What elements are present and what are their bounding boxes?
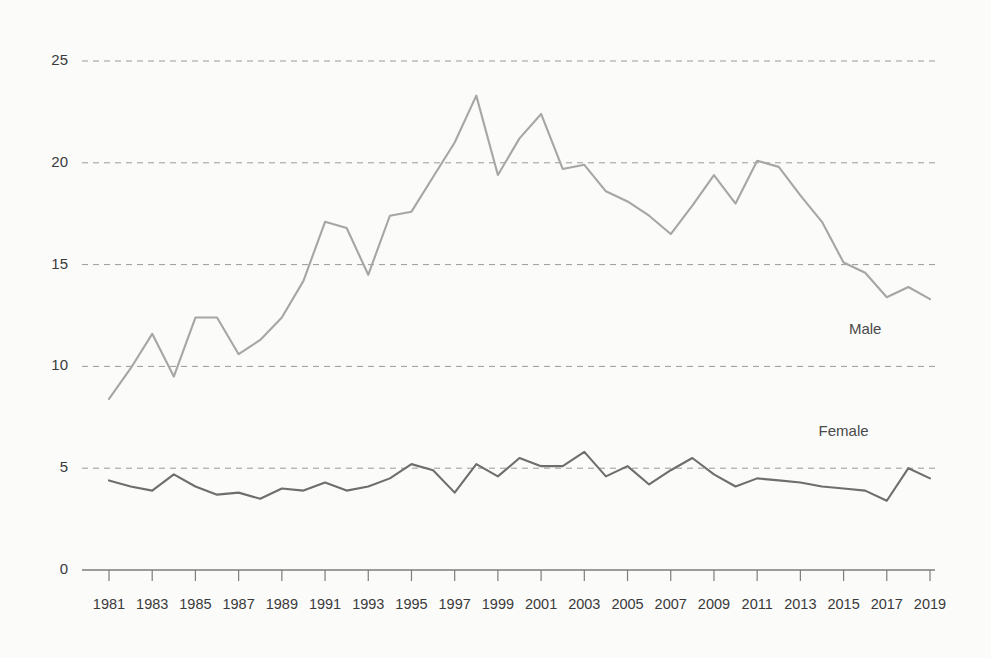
x-tick-label: 2001	[525, 596, 557, 612]
y-tick-label: 25	[51, 51, 68, 68]
x-tick-label: 2019	[914, 596, 946, 612]
y-tick-label: 0	[60, 560, 68, 577]
data-series-group	[109, 96, 930, 501]
x-tick-label: 2005	[611, 596, 643, 612]
x-tick-label: 1983	[136, 596, 168, 612]
x-tick-label: 2013	[784, 596, 816, 612]
x-tick-label: 2015	[827, 596, 859, 612]
x-tick-label: 1989	[266, 596, 298, 612]
x-tick-label: 2009	[698, 596, 730, 612]
series-label-male: Male	[849, 320, 882, 337]
series-label-group: MaleFemale	[819, 320, 882, 439]
x-tick-label: 1999	[482, 596, 514, 612]
x-axis-tick-labels: 1981198319851987198919911993199519971999…	[93, 596, 946, 612]
gridline-group	[82, 61, 935, 468]
x-tick-label: 1991	[309, 596, 341, 612]
line-chart: 0510152025 19811983198519871989199119931…	[0, 0, 991, 658]
series-label-female: Female	[819, 422, 869, 439]
y-tick-label: 20	[51, 153, 68, 170]
series-line-female	[109, 452, 930, 501]
x-tick-label: 2007	[655, 596, 687, 612]
y-tick-label: 15	[51, 255, 68, 272]
x-tick-label: 2003	[568, 596, 600, 612]
y-axis-tick-labels: 0510152025	[51, 51, 68, 577]
y-tick-label: 10	[51, 356, 68, 373]
x-tick-label: 2011	[742, 596, 773, 612]
x-tick-label: 1997	[439, 596, 471, 612]
x-axis	[82, 570, 935, 581]
x-tick-label: 1993	[352, 596, 384, 612]
x-tick-label: 1987	[222, 596, 254, 612]
y-tick-label: 5	[60, 458, 68, 475]
x-tick-label: 1985	[179, 596, 211, 612]
series-line-male	[109, 96, 930, 399]
x-tick-label: 1995	[395, 596, 427, 612]
x-tick-label: 1981	[93, 596, 125, 612]
x-tick-label: 2017	[871, 596, 903, 612]
chart-canvas: 0510152025 19811983198519871989199119931…	[0, 0, 991, 658]
